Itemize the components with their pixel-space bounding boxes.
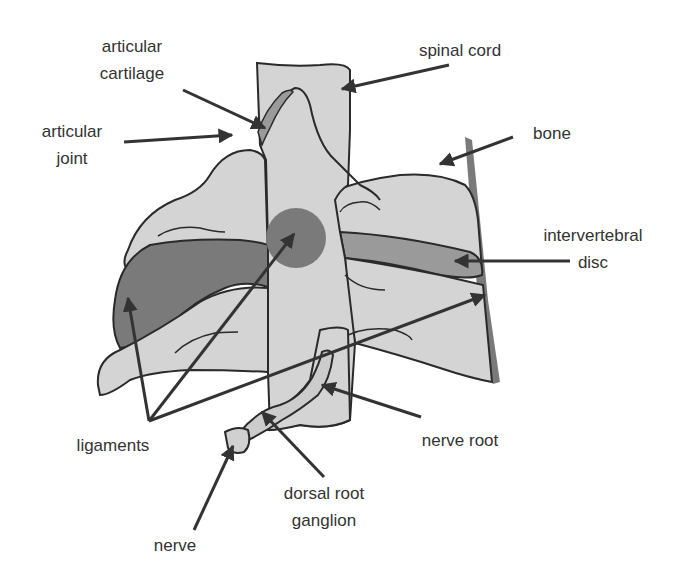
arrow-spinal-cord [342, 65, 449, 89]
arrow-bone [440, 137, 513, 164]
label-ligaments: ligaments [58, 432, 168, 459]
label-articular-joint: articular joint [22, 118, 122, 172]
arrow-articular-cartilage [183, 90, 265, 128]
nerve-stub [225, 428, 249, 453]
arrow-nerve [194, 446, 233, 530]
label-dorsal-root-ganglion: dorsal root ganglion [264, 480, 384, 534]
label-intervertebral-disc: intervertebral disc [523, 222, 663, 276]
label-articular-cartilage: articular cartilage [72, 33, 192, 87]
label-bone: bone [522, 120, 582, 147]
anatomy-diagram: articular cartilage articular joint spin… [0, 0, 682, 580]
arrow-articular-joint [124, 135, 232, 142]
label-spinal-cord: spinal cord [400, 37, 520, 64]
label-nerve: nerve [140, 532, 210, 559]
label-nerve-root: nerve root [405, 427, 515, 454]
